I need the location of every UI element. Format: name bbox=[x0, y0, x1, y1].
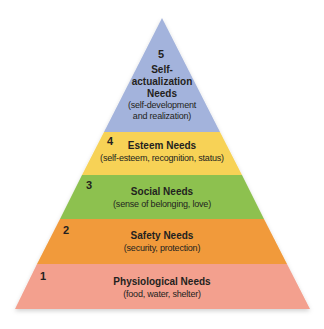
level-4-subtitle: (self-esteem, recognition, status) bbox=[62, 153, 262, 164]
level-2-subtitle: (security, protection) bbox=[62, 243, 262, 254]
level-2-title: Safety Needs bbox=[62, 230, 262, 242]
level-5-title-line: Needs bbox=[112, 88, 212, 100]
level-5-title-line: Self- bbox=[112, 64, 212, 76]
level-3-title: Social Needs bbox=[62, 186, 262, 198]
level-5-subtitle-line: (self-development bbox=[112, 100, 212, 111]
level-3-subtitle: (sense of belonging, love) bbox=[62, 199, 262, 210]
level-5-title-line: actualization bbox=[112, 76, 212, 88]
level-4-title: Esteem Needs bbox=[62, 140, 262, 152]
level-5-subtitle: (self-development and realization) bbox=[112, 100, 212, 122]
level-1-subtitle: (food, water, shelter) bbox=[62, 289, 262, 300]
level-1-number: 1 bbox=[40, 270, 46, 282]
level-5-title: Self- actualization Needs bbox=[112, 64, 212, 100]
level-1-title: Physiological Needs bbox=[62, 276, 262, 288]
level-5-number: 5 bbox=[158, 48, 164, 60]
level-5-subtitle-line: and realization) bbox=[112, 111, 212, 122]
